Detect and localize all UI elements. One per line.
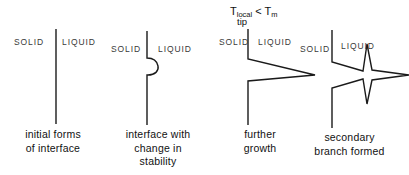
panel-interface-stability-change: SOLID LIQUID interface with change in st… bbox=[103, 0, 213, 175]
annotation-t-m: Tm bbox=[265, 5, 278, 17]
panel-4-caption: secondary branch formed bbox=[290, 131, 409, 158]
panel-3-liquid-label: LIQUID bbox=[258, 38, 292, 47]
annotation-relation: < bbox=[255, 5, 261, 17]
panel-initial-interface: SOLID LIQUID initial forms of interface bbox=[0, 0, 106, 175]
interface-evolution-figure: SOLID LIQUID initial forms of interface … bbox=[0, 0, 409, 175]
panel-2-liquid-label: LIQUID bbox=[158, 45, 192, 54]
panel-2-solid-label: SOLID bbox=[111, 45, 141, 54]
panel-4-liquid-label: LIQUID bbox=[341, 42, 375, 51]
panel-1-solid-label: SOLID bbox=[14, 38, 44, 47]
panel-1-caption: initial forms of interface bbox=[0, 128, 106, 155]
panel-secondary-branch: SOLID LIQUID secondary branch formed bbox=[290, 0, 409, 175]
panel-3-solid-label: SOLID bbox=[219, 38, 249, 47]
annotation-subscript-m: m bbox=[271, 10, 277, 19]
panel-3-temperature-annotation: Tlocal < Tm tip bbox=[230, 6, 278, 19]
annotation-subscript-tip: tip bbox=[237, 17, 247, 27]
panel-1-liquid-label: LIQUID bbox=[62, 38, 96, 47]
panel-2-caption: interface with change in stability bbox=[103, 128, 213, 169]
panel-4-solid-label: SOLID bbox=[300, 45, 330, 54]
interface-line-with-bulge bbox=[147, 31, 158, 125]
